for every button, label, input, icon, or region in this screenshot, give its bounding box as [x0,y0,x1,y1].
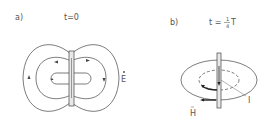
inner-h-arrow-segment [202,86,218,90]
panel-b-time-numerator: 1 [226,16,229,22]
panel-a-label: a) [15,13,23,22]
panel-b: b) t = 1 4 T I H [170,16,257,118]
panel-b-time-suffix: T [230,18,236,27]
field-arrows [28,59,106,82]
panel-b-time-denominator: 4 [226,23,229,29]
current-leader-line [221,80,246,96]
e-vector-dot [123,71,125,73]
panel-a-time: t=0 [64,13,79,22]
h-field-label: H [190,109,196,118]
current-label: I [248,96,250,105]
dipole-field-diagram: a) t=0 E b) t = 1 4 T [0,0,267,128]
panel-a: a) t=0 E [15,13,126,111]
panel-b-label: b) [170,18,178,27]
panel-b-time-prefix: t = [209,18,221,27]
outer-h-arrowhead [200,99,204,102]
e-field-label: E [121,75,126,84]
